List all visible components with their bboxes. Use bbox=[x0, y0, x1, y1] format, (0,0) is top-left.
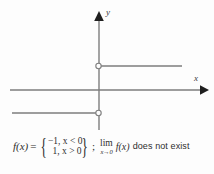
open-circle-lower bbox=[96, 110, 101, 115]
open-circle-upper bbox=[96, 63, 101, 68]
x-axis-label: x bbox=[194, 73, 198, 83]
equals-sign: = bbox=[30, 140, 36, 152]
caption: f(x) = { −1, x < 0 1, x > 0 } ; lim x→0 … bbox=[0, 132, 214, 174]
brace-right: } bbox=[82, 141, 88, 152]
graph-canvas bbox=[0, 0, 214, 134]
brace-left: { bbox=[41, 141, 47, 152]
piecewise-case-2: 1, x > 0 bbox=[48, 146, 82, 156]
limit-function: f(x) bbox=[116, 141, 130, 152]
limit-conclusion: does not exist bbox=[133, 141, 190, 151]
y-axis-arrowhead bbox=[94, 11, 104, 21]
function-name: f(x) bbox=[13, 140, 28, 152]
x-axis-arrowhead bbox=[200, 85, 209, 95]
y-axis-label: y bbox=[106, 7, 110, 17]
caption-row: f(x) = { −1, x < 0 1, x > 0 } ; lim x→0 … bbox=[13, 136, 190, 156]
piecewise-cases: −1, x < 0 1, x > 0 bbox=[48, 136, 82, 156]
piecewise-definition: { −1, x < 0 1, x > 0 } bbox=[38, 136, 91, 156]
piecewise-case-1: −1, x < 0 bbox=[48, 136, 82, 146]
figure-piecewise-step-function: y x f(x) = { −1, x < 0 1, x > 0 } ; lim … bbox=[0, 0, 214, 174]
limit-subscript: x→0 bbox=[100, 148, 112, 155]
limit-word: lim bbox=[100, 139, 113, 148]
semicolon: ; bbox=[92, 140, 95, 152]
limit-operator: lim x→0 bbox=[100, 139, 113, 155]
